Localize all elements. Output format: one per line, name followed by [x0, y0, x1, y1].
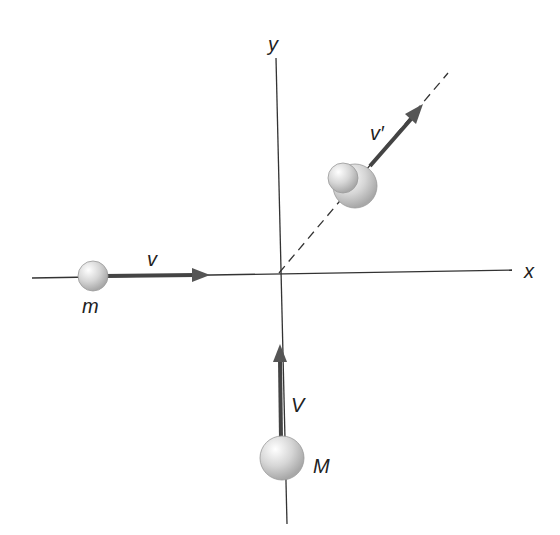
sphere-M	[260, 436, 304, 480]
diagram-graphics	[0, 0, 560, 535]
velocity-arrow-v	[104, 268, 210, 282]
combined-spheres	[328, 163, 377, 208]
velocity-label-v: v	[147, 249, 157, 269]
sphere-m	[78, 261, 108, 291]
velocity-label-V: V	[291, 395, 304, 415]
x-axis-label: x	[524, 261, 534, 281]
collision-diagram: y x v m V M v′	[0, 0, 560, 535]
y-axis-label: y	[268, 34, 278, 54]
velocity-label-v-prime: v′	[370, 123, 384, 143]
mass-label-M: M	[313, 456, 330, 476]
mass-label-m: m	[82, 296, 99, 316]
